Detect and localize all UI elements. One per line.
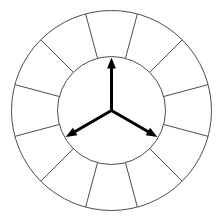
ring-divider-6	[15, 85, 59, 97]
ring-divider-3	[125, 14, 137, 58]
ring-divider-9	[86, 163, 98, 207]
ring-divider-12	[164, 124, 208, 136]
segmented-wheel-diagram	[0, 0, 223, 222]
ring-divider-7	[15, 124, 59, 136]
diagram-canvas: Segmented wheel with three radial vector…	[0, 0, 223, 222]
ring-divider-8	[41, 149, 74, 182]
ring-divider-10	[125, 163, 137, 207]
ring-divider-4	[86, 14, 98, 58]
arrow-lower-right-head	[146, 128, 158, 137]
arrow-lower-left-shaft	[73, 111, 111, 133]
ring-divider-5	[41, 40, 74, 73]
ring-divider-11	[150, 149, 183, 182]
arrow-up-head	[107, 58, 116, 69]
arrow-lower-right-shaft	[112, 111, 150, 133]
ring-divider-1	[164, 85, 208, 97]
vector-arrow-group	[66, 58, 158, 138]
ring-divider-2	[150, 40, 183, 73]
arrow-lower-left-head	[66, 128, 78, 137]
